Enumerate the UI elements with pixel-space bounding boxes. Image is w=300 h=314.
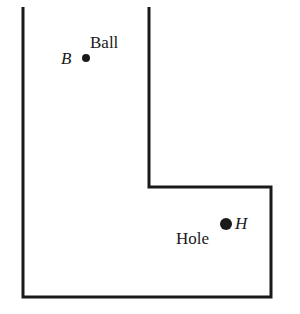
ball-letter: B [61, 50, 71, 67]
ball-label: Ball [90, 34, 118, 51]
hole-label: Hole [176, 230, 209, 247]
hole-letter: H [235, 215, 247, 232]
hole-dot [220, 218, 232, 230]
ball-dot [82, 54, 90, 62]
course-outline [0, 0, 300, 314]
